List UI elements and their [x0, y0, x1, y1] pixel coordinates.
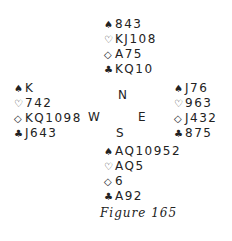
south-diamonds-cards: 6 [115, 174, 124, 189]
west-spades-cards: K [25, 81, 34, 96]
west-diamonds-cards: KQ1098 [25, 111, 82, 126]
south-hearts-row: ♡ AQ5 [104, 159, 181, 174]
club-icon: ♣ [104, 62, 114, 77]
west-spades-row: ♠ K [14, 81, 82, 96]
club-icon: ♣ [104, 189, 114, 204]
south-hand: ♠ AQ10952 ♡ AQ5 ◇ 6 ♣ A92 [104, 144, 181, 204]
heart-icon: ♡ [104, 159, 114, 174]
diamond-icon: ◇ [104, 47, 114, 62]
figure-caption: Figure 165 [100, 206, 177, 220]
north-clubs-cards: KQ10 [115, 62, 154, 77]
west-clubs-row: ♣ J643 [14, 126, 82, 141]
north-spades-cards: 843 [115, 17, 142, 32]
spade-icon: ♠ [14, 81, 24, 96]
compass-south: S [116, 126, 124, 140]
north-hand: ♠ 843 ♡ KJ108 ◇ A75 ♣ KQ10 [104, 17, 157, 77]
south-clubs-cards: A92 [115, 189, 143, 204]
north-spades-row: ♠ 843 [104, 17, 157, 32]
south-spades-row: ♠ AQ10952 [104, 144, 181, 159]
compass-north: N [118, 88, 127, 102]
east-clubs-cards: 875 [185, 126, 212, 141]
east-diamonds-cards: J432 [185, 111, 217, 126]
east-clubs-row: ♣ 875 [174, 126, 217, 141]
spade-icon: ♠ [174, 81, 184, 96]
east-hearts-row: ♡ 963 [174, 96, 217, 111]
north-diamonds-cards: A75 [115, 47, 143, 62]
east-diamonds-row: ◇ J432 [174, 111, 217, 126]
diamond-icon: ◇ [104, 174, 114, 189]
south-hearts-cards: AQ5 [115, 159, 145, 174]
north-hearts-cards: KJ108 [115, 32, 157, 47]
spade-icon: ♠ [104, 17, 114, 32]
diamond-icon: ◇ [174, 111, 184, 126]
west-hearts-row: ♡ 742 [14, 96, 82, 111]
compass-east: E [138, 110, 146, 124]
east-spades-cards: J76 [185, 81, 208, 96]
west-hearts-cards: 742 [25, 96, 52, 111]
east-spades-row: ♠ J76 [174, 81, 217, 96]
club-icon: ♣ [174, 126, 184, 141]
spade-icon: ♠ [104, 144, 114, 159]
north-diamonds-row: ◇ A75 [104, 47, 157, 62]
diamond-icon: ◇ [14, 111, 24, 126]
heart-icon: ♡ [174, 96, 184, 111]
north-hearts-row: ♡ KJ108 [104, 32, 157, 47]
west-hand: ♠ K ♡ 742 ◇ KQ1098 ♣ J643 [14, 81, 82, 141]
north-clubs-row: ♣ KQ10 [104, 62, 157, 77]
east-hearts-cards: 963 [185, 96, 212, 111]
east-hand: ♠ J76 ♡ 963 ◇ J432 ♣ 875 [174, 81, 217, 141]
compass-west: W [88, 110, 100, 124]
south-clubs-row: ♣ A92 [104, 189, 181, 204]
heart-icon: ♡ [104, 32, 114, 47]
heart-icon: ♡ [14, 96, 24, 111]
west-clubs-cards: J643 [25, 126, 57, 141]
west-diamonds-row: ◇ KQ1098 [14, 111, 82, 126]
club-icon: ♣ [14, 126, 24, 141]
south-diamonds-row: ◇ 6 [104, 174, 181, 189]
south-spades-cards: AQ10952 [115, 144, 181, 159]
